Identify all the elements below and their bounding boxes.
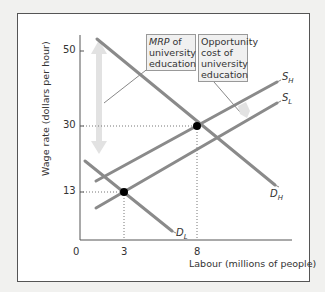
x-tick-label-3: 3 [121,246,127,257]
label-demand-low: DL [176,227,188,241]
equilibrium-high [193,122,201,130]
y-axis-title: Wage rate (dollars per hour) [40,41,51,176]
mrp-line3: education [149,58,193,69]
label-supply-high: SH [282,71,294,85]
label-supply-low: SL [282,92,292,106]
y-tick-label-13: 13 [63,185,76,196]
opp-line4: education [201,69,245,80]
mrp-line2: university [149,47,193,58]
x-axis-title: Labour (millions of people) [189,258,316,269]
opportunity-annotation-box: Opportunity cost of university education [198,34,248,82]
x-tick-label-8: 8 [194,246,200,257]
opp-line1: Opportunity [201,36,245,47]
mrp-annotation-box: MRP of university education [146,34,196,71]
mrp-arrow [91,40,107,154]
equilibrium-low [120,188,128,196]
label-demand-high: DH [270,188,283,202]
opportunity-connector [214,82,240,112]
x-tick-label-0: 0 [73,246,79,257]
mrp-connector [104,67,150,103]
y-tick-label-30: 30 [63,119,76,130]
opp-line3: university [201,58,245,69]
opp-line2: cost of [201,47,245,58]
mrp-abbrev: MRP [149,36,170,47]
opportunity-arrow [238,102,250,118]
mrp-line1: of [170,36,182,47]
y-tick-label-50: 50 [63,44,76,55]
